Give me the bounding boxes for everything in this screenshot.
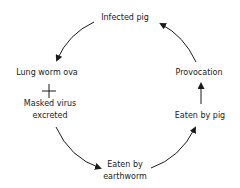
arrow-provocation-to-infected bbox=[161, 24, 196, 62]
node-eaten-by-earthworm-line1: Eaten by bbox=[107, 159, 142, 170]
node-provocation: Provocation bbox=[176, 67, 223, 78]
arrow-excreted-to-earthworm bbox=[56, 127, 100, 168]
node-masked-virus-line2: excreted bbox=[33, 110, 68, 121]
node-infected-pig: Infected pig bbox=[101, 12, 149, 23]
node-eaten-by-pig: Eaten by pig bbox=[175, 110, 225, 121]
node-masked-virus-line1: Masked virus bbox=[24, 98, 76, 109]
node-lung-worm-ova: Lung worm ova bbox=[16, 67, 78, 78]
plus-sign bbox=[42, 84, 56, 98]
node-eaten-by-earthworm-line2: earthworm bbox=[103, 171, 147, 182]
arrow-earthworm-to-pig bbox=[151, 128, 195, 168]
arrow-infected-to-ova bbox=[57, 22, 94, 60]
